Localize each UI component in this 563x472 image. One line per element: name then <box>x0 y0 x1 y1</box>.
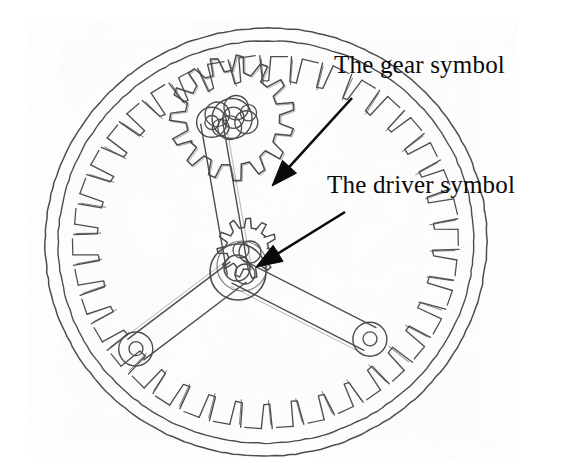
driver-symbol-label: The driver symbol <box>327 172 515 197</box>
figure-canvas: The gear symbol The driver symbol <box>0 0 563 472</box>
gear-symbol-label: The gear symbol <box>334 52 505 77</box>
